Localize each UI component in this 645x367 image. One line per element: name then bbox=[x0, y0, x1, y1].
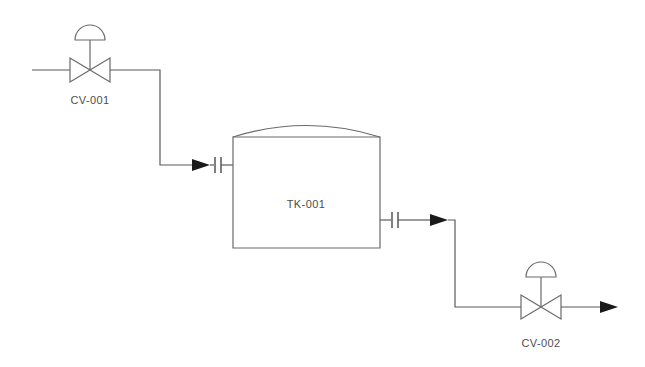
flow-arrow-tank-outlet bbox=[430, 214, 448, 226]
diaphragm-actuator-icon bbox=[75, 25, 105, 40]
flow-arrow-process-outlet bbox=[600, 301, 618, 313]
equipment-tag-cv-002: CV-002 bbox=[521, 337, 560, 349]
control-valve-cv-002[interactable] bbox=[521, 262, 561, 319]
valve-body-right-wedge bbox=[541, 295, 561, 319]
process-flow-diagram: CV-001 TK-001 bbox=[0, 0, 645, 367]
diaphragm-actuator-icon bbox=[526, 262, 556, 277]
tank-shell bbox=[233, 137, 380, 248]
valve-body-left-wedge bbox=[70, 58, 90, 82]
pipe-valve-to-tank bbox=[110, 70, 192, 165]
storage-tank-tk-001[interactable] bbox=[233, 126, 380, 249]
equipment-tag-cv-001: CV-001 bbox=[70, 94, 109, 106]
flow-arrow-tank-inlet bbox=[192, 159, 210, 171]
valve-body-left-wedge bbox=[521, 295, 541, 319]
equipment-tag-tk-001: TK-001 bbox=[287, 198, 325, 210]
control-valve-cv-001[interactable] bbox=[70, 25, 110, 82]
valve-body-right-wedge bbox=[90, 58, 110, 82]
tank-domed-head bbox=[233, 126, 380, 138]
pipe-tank-to-valve bbox=[448, 220, 521, 307]
pid-canvas: CV-001 TK-001 bbox=[0, 0, 645, 367]
